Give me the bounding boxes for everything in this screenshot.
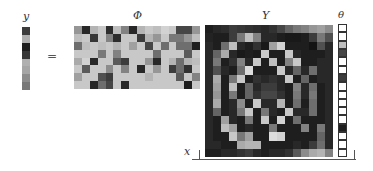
matrix-Y-cell: [229, 141, 237, 149]
vector-y-cell: [22, 82, 30, 90]
matrix-phi-cell: [169, 58, 177, 66]
matrix-Y-cell: [301, 149, 309, 157]
matrix-phi-cell: [192, 65, 200, 73]
matrix-phi-cell: [145, 50, 153, 58]
matrix-Y-cell: [261, 50, 269, 58]
matrix-Y-cell: [301, 124, 309, 132]
matrix-phi-cell: [192, 50, 200, 58]
matrix-Y-cell: [221, 141, 229, 149]
matrix-Y-cell: [325, 33, 333, 41]
vector-y: [22, 27, 30, 90]
matrix-Y-cell: [277, 83, 285, 91]
matrix-Y-cell: [237, 42, 245, 50]
matrix-phi-cell: [113, 26, 121, 34]
matrix-Y-cell: [277, 124, 285, 132]
matrix-phi-cell: [184, 26, 192, 34]
x-bracket-right-tick: [354, 150, 355, 159]
vector-y-cell: [22, 27, 30, 35]
matrix-Y-cell: [309, 141, 317, 149]
matrix-Y-cell: [205, 149, 213, 157]
matrix-Y-cell: [325, 149, 333, 157]
matrix-Y-cell: [301, 141, 309, 149]
matrix-Y-cell: [285, 141, 293, 149]
matrix-phi-cell: [106, 50, 114, 58]
matrix-Y-cell: [229, 83, 237, 91]
matrix-Y-cell: [253, 66, 261, 74]
vector-theta-cell: [338, 149, 347, 157]
matrix-Y-cell: [293, 91, 301, 99]
matrix-Y-cell: [221, 83, 229, 91]
matrix-Y-cell: [245, 58, 253, 66]
matrix-Y-cell: [317, 124, 325, 132]
matrix-phi-cell: [137, 73, 145, 81]
matrix-Y-cell: [309, 66, 317, 74]
matrix-phi-cell: [137, 81, 145, 89]
matrix-phi-cell: [121, 26, 129, 34]
matrix-Y-cell: [205, 116, 213, 124]
matrix-phi-cell: [137, 34, 145, 42]
matrix-phi-cell: [176, 42, 184, 50]
vector-theta-cell: [338, 82, 347, 90]
matrix-phi-cell: [184, 65, 192, 73]
matrix-phi-cell: [121, 58, 129, 66]
vector-y-cell: [22, 74, 30, 82]
matrix-Y-cell: [245, 75, 253, 83]
matrix-Y-cell: [317, 25, 325, 33]
matrix-Y-cell: [269, 50, 277, 58]
matrix-phi-cell: [153, 65, 161, 73]
matrix-Y-cell: [253, 108, 261, 116]
vector-theta-cell: [338, 132, 347, 140]
matrix-Y-cell: [293, 99, 301, 107]
equals-sign: =: [47, 50, 57, 62]
matrix-Y-cell: [293, 124, 301, 132]
matrix-Y-cell: [261, 42, 269, 50]
matrix-Y-cell: [213, 75, 221, 83]
matrix-phi-cell: [176, 50, 184, 58]
matrix-Y-cell: [293, 108, 301, 116]
matrix-Y-cell: [285, 42, 293, 50]
matrix-phi-cell: [153, 73, 161, 81]
matrix-Y-cell: [205, 141, 213, 149]
matrix-Y-cell: [301, 91, 309, 99]
matrix-phi-cell: [161, 42, 169, 50]
matrix-Y-cell: [229, 58, 237, 66]
matrix-phi-cell: [176, 73, 184, 81]
matrix-Y-cell: [213, 66, 221, 74]
matrix-Y-cell: [277, 50, 285, 58]
matrix-phi-cell: [90, 50, 98, 58]
matrix-phi-cell: [129, 58, 137, 66]
matrix-Y-cell: [269, 42, 277, 50]
matrix-Y-cell: [221, 108, 229, 116]
matrix-Y-cell: [245, 91, 253, 99]
matrix-Y-cell: [277, 108, 285, 116]
matrix-Y-cell: [309, 33, 317, 41]
matrix-phi-cell: [129, 73, 137, 81]
matrix-phi-cell: [74, 73, 82, 81]
matrix-Y-cell: [213, 25, 221, 33]
matrix-Y-cell: [317, 99, 325, 107]
matrix-Y-cell: [309, 50, 317, 58]
matrix-Y-cell: [269, 149, 277, 157]
matrix-Y-cell: [253, 99, 261, 107]
matrix-Y-cell: [309, 75, 317, 83]
matrix-Y-cell: [221, 58, 229, 66]
matrix-phi-cell: [184, 58, 192, 66]
vector-y-cell: [22, 35, 30, 43]
matrix-phi-cell: [90, 65, 98, 73]
matrix-Y-cell: [229, 91, 237, 99]
matrix-phi-cell: [82, 26, 90, 34]
label-theta: θ: [338, 10, 344, 20]
matrix-Y-cell: [261, 75, 269, 83]
matrix-Y-cell: [269, 58, 277, 66]
matrix-Y-cell: [277, 75, 285, 83]
matrix-phi-cell: [106, 73, 114, 81]
matrix-Y-cell: [253, 42, 261, 50]
matrix-Y-cell: [285, 132, 293, 140]
matrix-Y-cell: [285, 25, 293, 33]
matrix-phi-cell: [129, 81, 137, 89]
matrix-phi-cell: [74, 34, 82, 42]
matrix-Y-cell: [269, 83, 277, 91]
matrix-Y-cell: [213, 149, 221, 157]
matrix-phi-cell: [74, 26, 82, 34]
matrix-Y-cell: [293, 50, 301, 58]
